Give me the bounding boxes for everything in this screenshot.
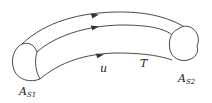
velocity-label: u	[100, 63, 107, 74]
outlet-cross-section	[169, 26, 198, 60]
inlet-cross-section	[12, 43, 40, 80]
streamline-middle	[37, 25, 171, 52]
arrow-icon	[91, 25, 100, 31]
inlet-area-label: AS1	[19, 86, 36, 99]
tube-label: T	[140, 58, 147, 69]
outlet-area-label: AS2	[178, 73, 195, 86]
streamline-top	[22, 12, 183, 44]
